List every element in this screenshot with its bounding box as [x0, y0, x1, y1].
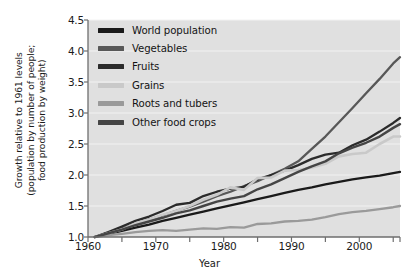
x-axis-tick-labels: 19601970198019902000	[0, 240, 419, 256]
legend-swatch-icon	[98, 101, 124, 106]
legend-swatch-icon	[98, 83, 124, 88]
legend-swatch-icon	[98, 46, 124, 51]
legend-item-other-food-crops[interactable]: Other food crops	[98, 113, 273, 131]
legend-item-roots-and-tubers[interactable]: Roots and tubers	[98, 95, 273, 113]
legend-swatch-icon	[98, 64, 124, 69]
x-tick-label-2000: 2000	[346, 240, 372, 252]
x-tick-label-1960: 1960	[75, 240, 101, 252]
x-tick-label-1980: 1980	[211, 240, 237, 252]
legend-item-grains[interactable]: Grains	[98, 76, 273, 94]
legend-label: Vegetables	[132, 43, 187, 54]
x-tick-label-1970: 1970	[143, 240, 169, 252]
legend-item-vegetables[interactable]: Vegetables	[98, 39, 273, 57]
legend-swatch-icon	[98, 120, 124, 125]
legend-label: Fruits	[132, 61, 159, 72]
x-tick-label-1990: 1990	[279, 240, 305, 252]
legend-label: Other food crops	[132, 117, 216, 128]
chart-legend: World populationVegetablesFruitsGrainsRo…	[98, 21, 273, 131]
chart-figure: Growth relative to 1961 levels (populati…	[0, 0, 419, 278]
legend-label: Grains	[132, 80, 164, 91]
x-axis-title: Year	[0, 258, 419, 269]
legend-label: Roots and tubers	[132, 98, 217, 109]
legend-item-world-population[interactable]: World population	[98, 21, 273, 39]
legend-item-fruits[interactable]: Fruits	[98, 58, 273, 76]
legend-swatch-icon	[98, 28, 124, 33]
legend-label: World population	[132, 25, 217, 36]
